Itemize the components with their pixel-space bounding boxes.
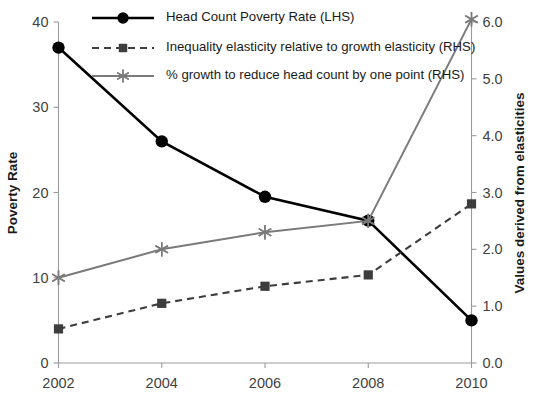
right-tick-label: 2.0: [483, 241, 503, 257]
x-axis-ticks: 20022004200620082010: [42, 363, 487, 391]
right-tick-label: 3.0: [483, 185, 503, 201]
poverty-elasticity-line-chart: 010203040 0.01.02.03.04.05.06.0 20022004…: [0, 0, 536, 398]
legend-label: Head Count Poverty Rate (LHS): [166, 9, 354, 24]
left-axis-title: Poverty Rate: [5, 151, 20, 234]
series-line: [59, 48, 472, 321]
marker-square: [364, 270, 373, 279]
marker-circle: [465, 314, 477, 326]
marker-square: [157, 299, 166, 308]
marker-square: [54, 324, 63, 333]
legend-item-2: Inequality elasticity relative to growth…: [92, 39, 475, 54]
right-tick-label: 5.0: [483, 71, 503, 87]
left-tick-label: 0: [40, 355, 48, 371]
left-tick-label: 30: [32, 99, 48, 115]
left-axis-ticks: 010203040: [32, 14, 58, 371]
legend-item-1: Head Count Poverty Rate (LHS): [92, 9, 354, 24]
right-tick-label: 1.0: [483, 298, 503, 314]
data-series-layer: [52, 12, 477, 334]
x-tick-label: 2002: [42, 375, 74, 391]
chart-legend: Head Count Poverty Rate (LHS)Inequality …: [92, 9, 475, 82]
series-group-2: [54, 199, 476, 333]
marker-circle: [259, 191, 271, 203]
marker-square: [260, 282, 269, 291]
legend-item-3: % growth to reduce head count by one poi…: [92, 67, 464, 82]
chart-container: 010203040 0.01.02.03.04.05.06.0 20022004…: [0, 0, 536, 398]
left-tick-label: 40: [32, 14, 48, 30]
marker-circle: [156, 135, 168, 147]
right-tick-label: 0.0: [483, 355, 503, 371]
marker-square: [119, 44, 127, 52]
left-tick-label: 10: [32, 270, 48, 286]
x-tick-label: 2010: [455, 375, 487, 391]
legend-label: Inequality elasticity relative to growth…: [166, 39, 475, 54]
marker-asterisk: [465, 12, 477, 26]
right-tick-label: 6.0: [483, 14, 503, 30]
right-tick-label: 4.0: [483, 128, 503, 144]
right-axis-title: Values derived from elasticities: [512, 92, 527, 293]
left-tick-label: 20: [32, 185, 48, 201]
x-tick-label: 2006: [249, 375, 281, 391]
x-tick-label: 2004: [146, 375, 178, 391]
marker-circle: [117, 12, 128, 23]
x-tick-label: 2008: [352, 375, 384, 391]
legend-label: % growth to reduce head count by one poi…: [166, 67, 464, 82]
marker-square: [467, 199, 476, 208]
series-line: [59, 204, 472, 329]
marker-circle: [52, 41, 64, 53]
